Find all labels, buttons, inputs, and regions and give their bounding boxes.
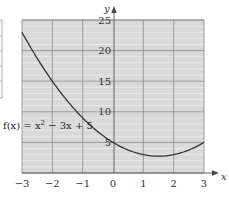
x-tick-label: 1 bbox=[140, 178, 146, 189]
x-tick-label: −1 bbox=[75, 178, 90, 189]
plot-area bbox=[22, 20, 204, 173]
y-tick-label: 20 bbox=[98, 45, 111, 56]
y-tick-label: 15 bbox=[98, 76, 111, 87]
x-axis-label: x bbox=[221, 171, 227, 182]
x-tick-label: −3 bbox=[15, 178, 30, 189]
y-tick-label: 10 bbox=[98, 106, 111, 117]
cropped-left-frame bbox=[0, 20, 2, 98]
y-axis-arrow-icon bbox=[111, 6, 116, 13]
y-axis-label: y bbox=[103, 3, 110, 14]
x-tick-label: 2 bbox=[170, 178, 176, 189]
x-axis-arrow-icon bbox=[212, 170, 219, 175]
x-tick-labels: −3−2−10123 bbox=[15, 178, 208, 189]
equation-label: f(x) = x2 − 3x + 5 bbox=[3, 119, 93, 131]
x-tick-label: 3 bbox=[201, 178, 207, 189]
x-tick-label: −2 bbox=[45, 178, 60, 189]
function-graph: x y −3−2−10123 510152025 f(x) = x2 − 3x … bbox=[0, 0, 229, 198]
x-tick-label: 0 bbox=[110, 178, 116, 189]
y-tick-label: 25 bbox=[98, 15, 111, 26]
